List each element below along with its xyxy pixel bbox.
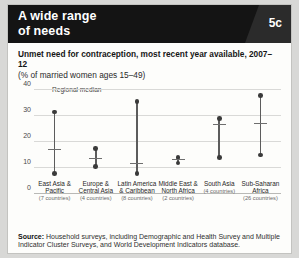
min-dot [176,161,181,166]
range-marker [158,90,199,194]
figure-title: A wide range of needs [18,9,97,39]
plot-canvas: 010203040 [34,90,281,194]
min-dot [135,171,140,176]
min-dot [52,171,57,176]
source-text: Household surveys, including Demographic… [18,233,280,249]
range-marker [240,90,281,194]
figure-title-line1: A wide range [18,9,97,23]
chart-title: Unmet need for contraception, most recen… [18,49,281,69]
max-dot [135,99,140,104]
median-tick [254,123,267,124]
median-tick [89,158,102,159]
max-dot [258,93,263,98]
chart-heading: Unmet need for contraception, most recen… [8,43,291,80]
figure-card: A wide range of needs 5c Unmet need for … [8,5,291,253]
x-axis-label: Middle East & North Africa(2 countries) [158,180,199,214]
chart-plot-area: Regional median 010203040 East Asia & Pa… [14,84,285,212]
x-axis-label-count: (4 countries) [75,195,116,202]
x-axis-label-count: (7 countries) [34,195,75,202]
x-axis-label: Latin America & Caribbean(8 countries) [116,180,157,214]
median-tick [172,159,185,160]
x-axis-label: Sub-Saharan Africa(26 countries) [240,180,281,214]
x-axis-label-count: (4 countries) [199,188,240,195]
chart-subtitle: (% of married women ages 15–49) [18,70,281,80]
min-dot [258,153,263,158]
range-line [260,95,262,155]
figure-title-line2: of needs [18,24,70,38]
range-line [54,112,56,173]
x-axis-label: East Asia & Pacific(7 countries) [34,180,75,214]
range-marker [34,90,75,194]
source-label: Source: [18,233,44,240]
source-note: Source: Household surveys, including Dem… [18,233,283,250]
median-tick [213,124,226,125]
figure-number-badge: 5c [269,16,282,30]
x-axis-label: South Asia(4 countries) [199,180,240,214]
x-axis-label-name: Europe & Central Asia [79,180,113,194]
max-dot [93,146,98,151]
y-axis-tick-label: 40 [23,80,31,87]
min-dot [217,155,222,160]
range-marker [116,90,157,194]
x-axis-labels: East Asia & Pacific(7 countries)Europe &… [34,180,281,214]
median-tick [130,163,143,164]
x-axis-label-name: East Asia & Pacific [38,180,71,194]
y-axis-tick-label: 0 [27,184,31,191]
y-axis-tick-label: 30 [23,106,31,113]
x-axis-label-count: (2 countries) [158,195,199,202]
y-axis-tick-label: 20 [23,132,31,139]
range-marker [199,90,240,194]
x-axis-label: Europe & Central Asia(4 countries) [75,180,116,214]
x-axis-label-count: (8 countries) [116,195,157,202]
median-tick [48,149,61,150]
x-axis-label-name: Latin America & Caribbean [118,180,157,194]
y-axis-tick-label: 10 [23,158,31,165]
min-dot [93,164,98,169]
max-dot [217,116,222,121]
x-axis-label-name: Sub-Saharan Africa [242,180,280,194]
range-marker [75,90,116,194]
figure-header: A wide range of needs 5c [8,5,291,43]
max-dot [52,110,57,115]
x-axis-label-name: South Asia [204,180,235,187]
x-axis-label-name: Middle East & North Africa [158,180,197,194]
x-axis-label-count: (26 countries) [240,195,281,202]
